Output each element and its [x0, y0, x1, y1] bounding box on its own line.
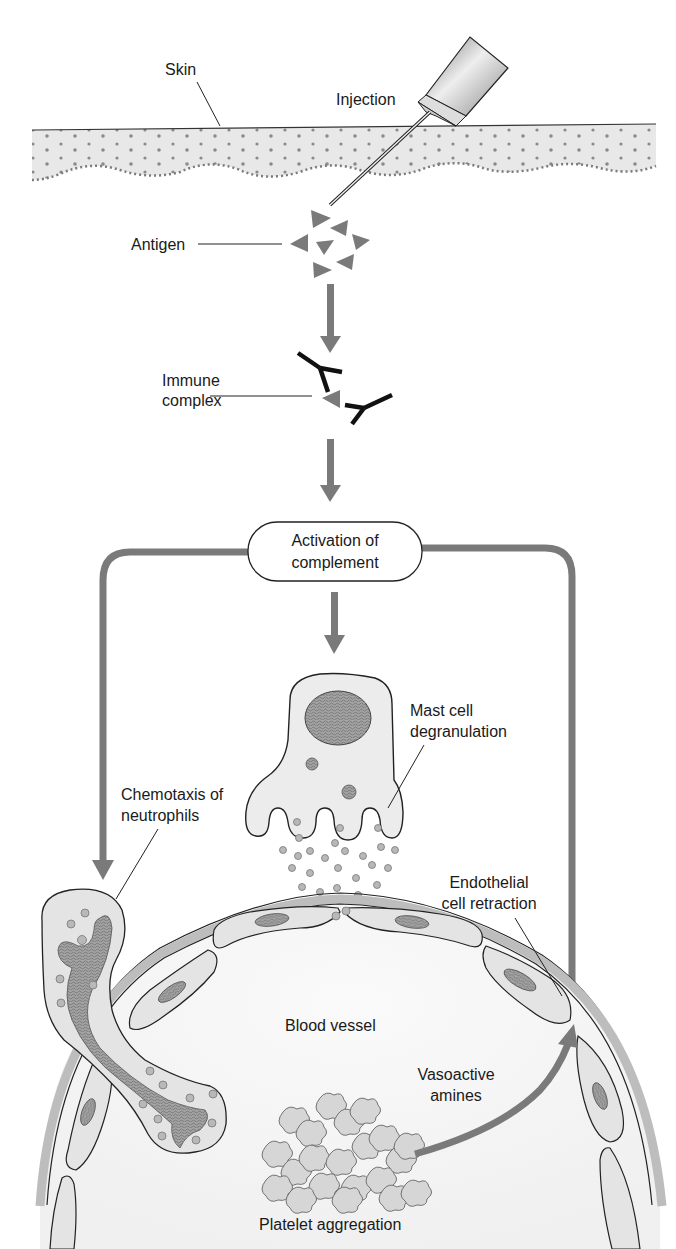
svg-text:degranulation: degranulation: [410, 723, 507, 740]
antigen-label: Antigen: [131, 236, 282, 253]
svg-text:Antigen: Antigen: [131, 236, 185, 253]
blood-vessel-label: Blood vessel: [285, 1017, 376, 1034]
arrow-antigen-to-complex: [320, 284, 341, 353]
svg-text:Immune: Immune: [162, 372, 220, 389]
arrow-complex-to-activation: [320, 439, 341, 502]
injection-label: Injection: [336, 91, 396, 108]
activation-of-complement-node: Activation of complement: [248, 522, 422, 581]
svg-text:complex: complex: [162, 392, 222, 409]
chemotaxis-label: Chemotaxis of neutrophils: [116, 786, 224, 899]
mast-cell-label: Mast cell degranulation: [388, 702, 507, 808]
svg-text:amines: amines: [430, 1087, 482, 1104]
svg-text:neutrophils: neutrophils: [121, 807, 199, 824]
svg-text:cell retraction: cell retraction: [441, 895, 536, 912]
skin-label: Skin: [165, 61, 220, 126]
arthus-reaction-diagram: Skin Injection Antigen Im: [0, 0, 676, 1249]
syringe-icon: [330, 37, 508, 205]
mast-cell: [246, 674, 403, 841]
arrow-activation-to-mast-cell: [324, 592, 345, 654]
platelet-aggregation-label: Platelet aggregation: [259, 1216, 401, 1233]
immune-complex: [298, 353, 392, 424]
svg-text:complement: complement: [291, 554, 379, 571]
svg-text:Skin: Skin: [165, 61, 196, 78]
immune-complex-label: Immune complex: [162, 372, 312, 409]
svg-text:Vasoactive: Vasoactive: [417, 1066, 494, 1083]
svg-text:Chemotaxis of: Chemotaxis of: [121, 786, 224, 803]
svg-text:Mast cell: Mast cell: [410, 702, 473, 719]
antigen-cluster: [290, 210, 370, 278]
svg-text:Activation of: Activation of: [291, 532, 379, 549]
svg-text:Endothelial: Endothelial: [449, 874, 528, 891]
complex-antigen: [322, 390, 340, 408]
skin-layer: [32, 124, 656, 180]
arrow-head-neutrophil: [92, 860, 114, 880]
mast-cell-nucleus: [305, 691, 371, 745]
